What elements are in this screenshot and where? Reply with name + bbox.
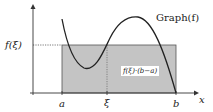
y-axis-arrow-icon [31,4,36,9]
a-label: a [59,99,65,109]
b-label: b [173,99,179,109]
xi-label: ξ [104,98,110,108]
graph-label: Graph(f) [156,13,199,23]
area-label: f(ξ)·(b−a) [121,66,159,76]
x-axis-label: x [199,95,205,105]
f-xi-label: f(ξ) [5,40,22,50]
